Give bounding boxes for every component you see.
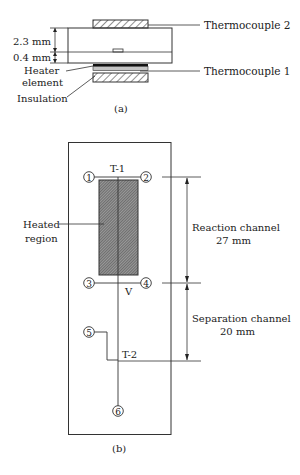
port-1-label: 1 — [86, 173, 92, 183]
heated-label-line2: region — [25, 233, 58, 244]
port-2: 2 — [141, 172, 152, 183]
channel-5 — [94, 332, 118, 360]
heater-element — [93, 64, 148, 67]
reaction-arrow-up — [185, 178, 189, 185]
figure-b-top-view: 1 2 3 4 5 6 T-1 V T-2 Heated region — [23, 143, 291, 455]
reaction-label-line1: Reaction channel — [192, 222, 280, 233]
port-6: 6 — [113, 406, 124, 417]
reaction-label-line2: 27 mm — [216, 235, 251, 246]
port-5: 5 — [84, 327, 95, 338]
thermocouple-2-label: Thermocouple 2 — [204, 19, 291, 31]
insulation-leader — [67, 76, 95, 97]
heater-substrate — [93, 67, 148, 71]
caption-b: (b) — [112, 443, 126, 454]
separation-label-line1: Separation channel — [192, 313, 291, 324]
dimension-2-3mm: 2.3 mm — [13, 36, 52, 47]
dimension-0-4mm: 0.4 mm — [13, 52, 52, 63]
heated-label-line1: Heated — [23, 219, 61, 230]
heater-label-line2: element — [22, 77, 63, 88]
insulation-block — [93, 73, 148, 82]
separation-arrow-up — [185, 284, 189, 291]
label-t1: T-1 — [110, 163, 125, 174]
port-5-label: 5 — [86, 328, 92, 338]
separation-label-line2: 20 mm — [220, 326, 255, 337]
port-4-label: 4 — [143, 279, 149, 289]
label-v: V — [124, 286, 133, 297]
port-2-label: 2 — [143, 173, 149, 183]
port-4: 4 — [141, 278, 152, 289]
port-3-label: 3 — [86, 279, 92, 289]
dim-arrow-down-top — [53, 48, 57, 52]
thermocouple-1-label: Thermocouple 1 — [204, 65, 291, 77]
port-6-label: 6 — [115, 407, 121, 417]
insulation-label: Insulation — [17, 93, 68, 104]
heated-region — [99, 180, 138, 275]
label-t2: T-2 — [122, 349, 137, 360]
figure-a-cross-section: Thermocouple 2 2.3 mm 0.4 mm Thermocoupl… — [13, 19, 291, 114]
dim-arrow-up-bottom — [53, 52, 57, 56]
separation-arrow-down — [185, 354, 189, 361]
thermocouple-2-block — [93, 20, 148, 28]
port-3: 3 — [84, 278, 95, 289]
reaction-arrow-down — [185, 276, 189, 283]
channel-bump — [113, 49, 123, 52]
dim-arrow-down-bottom — [53, 59, 57, 63]
heater-label-line1: Heater — [24, 65, 60, 76]
caption-a: (a) — [114, 103, 128, 114]
chip-body — [68, 28, 172, 63]
diagram-canvas: Thermocouple 2 2.3 mm 0.4 mm Thermocoupl… — [0, 0, 300, 475]
dim-arrow-up — [53, 28, 57, 32]
port-1: 1 — [84, 172, 95, 183]
heater-leader — [66, 66, 93, 71]
